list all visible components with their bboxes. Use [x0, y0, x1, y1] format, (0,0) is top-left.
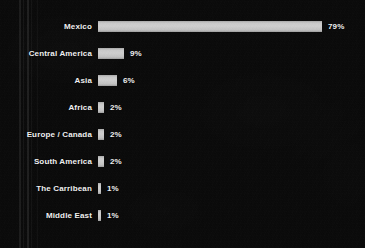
bar-row: South America2% [0, 156, 365, 167]
bar [98, 102, 104, 113]
bar [98, 129, 104, 140]
bar [98, 21, 322, 32]
bar-row: Europe / Canada2% [0, 129, 365, 140]
category-label: Europe / Canada [0, 129, 92, 140]
bar [98, 156, 104, 167]
category-label: Mexico [0, 21, 92, 32]
bar-row: Asia6% [0, 75, 365, 86]
bar-chart: Mexico79%Central America9%Asia6%Africa2%… [0, 0, 365, 248]
value-label: 2% [110, 129, 122, 140]
category-label: Africa [0, 102, 92, 113]
bar [98, 48, 124, 59]
bar [98, 183, 101, 194]
value-label: 6% [123, 75, 135, 86]
value-label: 79% [328, 21, 344, 32]
bar-row: Middle East1% [0, 210, 365, 221]
category-label: South America [0, 156, 92, 167]
bar-row: Central America9% [0, 48, 365, 59]
bar-row: The Carribean1% [0, 183, 365, 194]
bar [98, 75, 117, 86]
value-label: 1% [107, 183, 119, 194]
value-label: 1% [107, 210, 119, 221]
bar [98, 210, 101, 221]
bar-row: Mexico79% [0, 21, 365, 32]
plot-area: Mexico79%Central America9%Asia6%Africa2%… [0, 0, 365, 248]
value-label: 9% [130, 48, 142, 59]
value-label: 2% [110, 156, 122, 167]
value-label: 2% [110, 102, 122, 113]
category-label: Central America [0, 48, 92, 59]
bar-row: Africa2% [0, 102, 365, 113]
category-label: Middle East [0, 210, 92, 221]
category-label: The Carribean [0, 183, 92, 194]
category-label: Asia [0, 75, 92, 86]
